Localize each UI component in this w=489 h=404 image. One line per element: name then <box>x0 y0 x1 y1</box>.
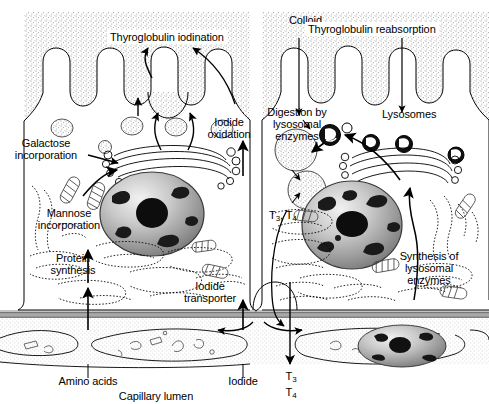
basement-membrane <box>0 311 489 318</box>
label-t3-t4-secreted: T3 T4 <box>280 370 302 402</box>
label-t4-secreted: T4 <box>280 386 302 402</box>
label-protein-synthesis-line1: Protein <box>42 252 104 264</box>
label-synthesis-line2: lysosomal <box>392 262 466 274</box>
label-iodide-transporter-line1: Iodide <box>179 280 241 292</box>
label-iodide-oxidation: Iodide oxidation <box>203 116 255 140</box>
label-mannose-line2: incorporation <box>28 219 110 231</box>
label-t3-t4-text: T3, T4 <box>269 209 297 221</box>
label-galactose-line1: Galactose <box>8 137 84 149</box>
label-galactose-line2: incorporation <box>8 149 84 161</box>
capillary-region <box>0 318 489 368</box>
label-synthesis-line1: Synthesis of <box>392 250 466 262</box>
label-iodide: Iodide <box>219 375 267 387</box>
label-galactose-incorporation: Galactose incorporation <box>8 137 84 161</box>
label-thyroglobulin-reabsorption: Thyroglobulin reabsorption <box>305 22 439 36</box>
nucleus-endothelial <box>358 325 446 367</box>
label-synthesis-of-lysosomal-enzymes: Synthesis of lysosomal enzymes <box>392 250 466 286</box>
label-t3-secreted: T3 <box>280 370 302 386</box>
arrow-vesicle-apex-2 <box>188 113 194 150</box>
label-protein-synthesis-line2: synthesis <box>42 264 104 276</box>
nucleus-left <box>100 172 204 256</box>
arrow-t3t4-basal <box>272 210 287 326</box>
label-protein-synthesis: Protein synthesis <box>42 252 104 276</box>
label-thyroglobulin-iodination: Thyroglobulin iodination <box>107 30 227 44</box>
label-digestion-line3: enzymes <box>258 130 336 142</box>
nucleus-right <box>302 181 402 269</box>
label-mannose-incorporation: Mannose incorporation <box>28 207 110 231</box>
label-iodide-transporter: Iodide transporter <box>179 280 241 304</box>
figure-canvas: Colloid Thyroglobulin iodination Thyrogl… <box>0 0 489 404</box>
label-iodide-oxidation-line1: Iodide <box>203 116 255 128</box>
arrow-vesicle-to-apex <box>155 113 161 150</box>
label-t3-t4-intracellular: T3, T4 <box>269 209 297 225</box>
label-iodide-transporter-line2: transporter <box>179 292 241 304</box>
label-digestion-line2: lysosomal <box>258 118 336 130</box>
thyroid-follicle-diagram <box>0 0 489 404</box>
label-synthesis-line3: enzymes <box>392 274 466 286</box>
label-iodide-oxidation-line2: oxidation <box>203 128 255 140</box>
label-digestion-by-lysosomal-enzymes: Digestion by lysosomal enzymes <box>258 106 336 142</box>
label-amino-acids: Amino acids <box>46 375 130 387</box>
label-mannose-line1: Mannose <box>28 207 110 219</box>
label-capillary-lumen: Capillary lumen <box>105 390 207 402</box>
label-digestion-line1: Digestion by <box>258 106 336 118</box>
label-lysosomes: Lysosomes <box>382 108 436 120</box>
